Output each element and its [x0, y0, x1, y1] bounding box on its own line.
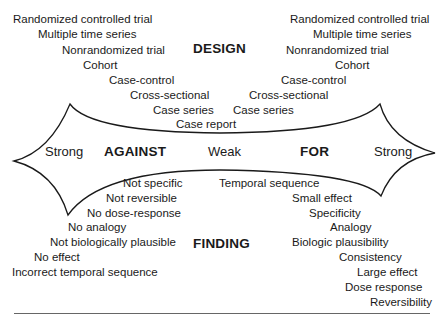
- design-for-item: Nonrandomized trial: [286, 43, 389, 57]
- design-for-item: Cross-sectional: [249, 88, 328, 102]
- design-against-item: Multiple time series: [38, 27, 136, 41]
- finding-for-item: Consistency: [339, 250, 402, 264]
- finding-title: FINDING: [193, 237, 250, 251]
- design-for-item: Randomized controlled trial: [290, 12, 429, 26]
- for-strong-label: Strong: [374, 145, 412, 159]
- design-against-item: Randomized controlled trial: [13, 12, 152, 26]
- finding-against-item: No analogy: [68, 220, 126, 234]
- finding-for-item: Dose response: [345, 280, 422, 294]
- design-against-item: Case-control: [109, 73, 174, 87]
- against-strong-label: Strong: [45, 145, 83, 159]
- finding-for-item: Analogy: [330, 220, 372, 234]
- finding-for-item: Biologic plausibility: [292, 235, 389, 249]
- design-against-item: Case series: [153, 103, 214, 117]
- finding-for-item: Temporal sequence: [219, 176, 319, 190]
- finding-against-item: Not biologically plausible: [50, 235, 176, 249]
- design-title: DESIGN: [193, 42, 246, 56]
- for-label: FOR: [300, 145, 329, 159]
- bottom-rule: [14, 313, 430, 314]
- design-for-item: Multiple time series: [313, 27, 411, 41]
- finding-against-item: No dose-response: [87, 206, 181, 220]
- design-for-item: Case series: [233, 103, 294, 117]
- design-against-item: Cross-sectional: [130, 88, 209, 102]
- finding-against-item: Not reversible: [106, 191, 177, 205]
- finding-for-item: Specificity: [309, 206, 361, 220]
- design-for-item: Cohort: [335, 58, 370, 72]
- weak-label: Weak: [208, 145, 241, 159]
- design-against-item: Case report: [176, 117, 236, 131]
- finding-against-item: Not specific: [123, 176, 182, 190]
- design-against-item: Cohort: [83, 58, 118, 72]
- design-against-item: Nonrandomized trial: [62, 43, 165, 57]
- finding-for-item: Reversibility: [370, 295, 432, 309]
- against-label: AGAINST: [104, 145, 166, 159]
- finding-for-item: Small effect: [292, 191, 352, 205]
- finding-against-item: No effect: [34, 250, 80, 264]
- finding-for-item: Large effect: [357, 265, 418, 279]
- design-for-item: Case-control: [281, 73, 346, 87]
- finding-against-item: Incorrect temporal sequence: [12, 265, 158, 279]
